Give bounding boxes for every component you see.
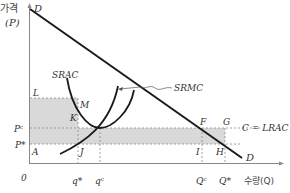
x-axis-label: 수량(Q) — [244, 175, 274, 186]
demand-label-end: D — [245, 152, 254, 163]
y-axis-arrow-icon — [28, 3, 32, 8]
demand-label-top: D — [33, 3, 42, 14]
qty-label-Qstar: Q* — [219, 176, 231, 186]
monopoly-cost-diagram: 가격 (P) D D SRAC SRMC C = LRAC L M K A J … — [0, 0, 290, 193]
y-axis-label-sym: (P) — [5, 17, 20, 28]
point-I: I — [195, 147, 200, 157]
srmc-label: SRMC — [174, 83, 203, 93]
point-K: K — [69, 113, 78, 123]
point-G: G — [223, 117, 230, 127]
qty-label-Qc: Qᶜ — [196, 176, 207, 186]
point-F: F — [199, 117, 207, 127]
shaded-area-pc-pstar — [30, 128, 225, 144]
point-A: A — [31, 147, 39, 157]
qty-label-qstar: q* — [72, 176, 83, 186]
point-L: L — [32, 88, 39, 98]
price-label-pstar: P* — [14, 140, 26, 150]
x-axis-arrow-icon — [279, 162, 284, 166]
y-axis-label-kr: 가격 — [0, 2, 18, 14]
lrac-label: C = LRAC — [242, 123, 288, 133]
srmc-pointer — [120, 87, 172, 90]
point-M: M — [79, 100, 90, 110]
point-H: H — [215, 147, 224, 157]
point-J: J — [78, 147, 85, 157]
qty-label-qc: qᶜ — [95, 176, 104, 186]
srac-label: SRAC — [52, 70, 78, 80]
srmc-pointer-arrow-icon — [118, 87, 123, 91]
origin-label: 0 — [21, 173, 27, 183]
price-label-pc: Pᶜ — [13, 124, 23, 134]
